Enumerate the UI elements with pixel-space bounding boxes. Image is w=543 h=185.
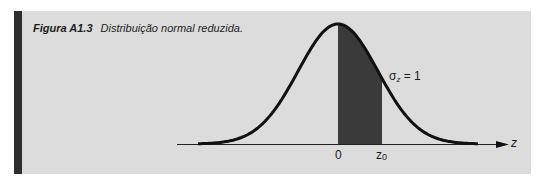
- axis-label-z: z: [510, 136, 517, 150]
- normal-distribution-chart: 0 z0 z σz = 1: [0, 0, 543, 185]
- tick-label-z0: z0: [376, 148, 387, 162]
- tick-label-zero: 0: [335, 148, 342, 162]
- x-axis-arrow-icon: [496, 141, 509, 148]
- sigma-annotation: σz = 1: [389, 69, 421, 84]
